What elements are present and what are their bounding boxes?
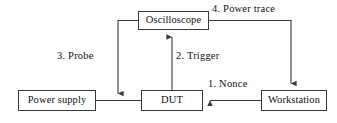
node-workstation-label: Workstation [268, 95, 320, 106]
node-oscilloscope-label: Oscilloscope [146, 15, 201, 26]
node-power-supply: Power supply [18, 90, 96, 111]
edge-power-trace-line [209, 21, 291, 84]
block-diagram: Oscilloscope Power supply DUT Workstatio… [0, 0, 337, 123]
node-power-supply-label: Power supply [28, 95, 87, 106]
edge-label-nonce: 1. Nonce [208, 79, 248, 90]
node-oscilloscope: Oscilloscope [138, 11, 209, 30]
edge-label-trigger: 2. Trigger [176, 51, 219, 62]
edge-label-probe: 3. Probe [57, 51, 94, 62]
edge-probe-line [118, 21, 138, 94]
node-dut: DUT [141, 90, 203, 111]
node-dut-label: DUT [161, 95, 183, 106]
edge-label-power-trace: 4. Power trace [212, 4, 275, 15]
node-workstation: Workstation [261, 90, 327, 111]
